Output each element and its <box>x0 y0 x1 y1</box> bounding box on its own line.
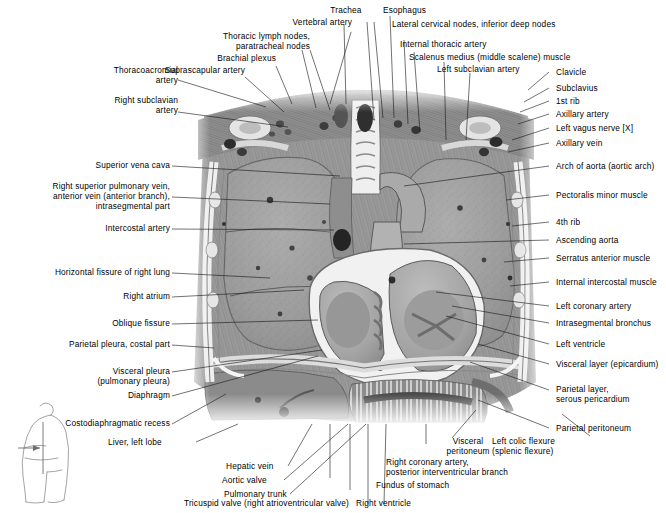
label-suprascapular-artery: Suprascapular artery <box>104 66 245 76</box>
label-left-vagus-nerve: Left vagus nerve [X] <box>556 124 666 134</box>
label-lateral-cervical-nodes: Lateral cervical nodes, inferior deep no… <box>392 20 592 30</box>
label-pectoralis-minor-muscle: Pectoralis minor muscle <box>556 191 666 201</box>
label-superior-vena-cava: Superior vena cava <box>24 161 170 171</box>
label-diaphragm: Diaphragm <box>24 391 170 401</box>
label-right-superior-pulmonary-vein: Right superior pulmonary vein, anterior … <box>24 182 170 211</box>
label-trachea: Trachea <box>318 6 374 16</box>
label-liver-left-lobe: Liver, left lobe <box>108 438 218 448</box>
label-subclavius: Subclavius <box>556 84 664 94</box>
label-intercostal-artery: Intercostal artery <box>24 224 170 234</box>
label-right-atrium: Right atrium <box>24 292 170 302</box>
label-scalenus-medius: Scalenus medius (middle scalene) muscle <box>409 53 609 63</box>
label-thoracic-lymph-nodes: Thoracic lymph nodes, paratracheal nodes <box>144 32 310 52</box>
orientation-diagram <box>6 396 84 508</box>
label-parietal-pleura-costal-part: Parietal pleura, costal part <box>20 340 170 350</box>
label-axillary-artery: Axillary artery <box>556 110 664 120</box>
atlas-figure-page: Thoracoacromial artery Right subclavian … <box>0 0 666 513</box>
label-visceral-pleura: Visceral pleura (pulmonary pleura) <box>24 367 170 387</box>
label-hepatic-vein: Hepatic vein <box>226 462 316 472</box>
label-serratus-anterior-muscle: Serratus anterior muscle <box>556 254 666 264</box>
label-right-subclavian-artery: Right subclavian artery <box>30 96 178 116</box>
body-silhouette-section-indicator <box>6 396 84 508</box>
label-left-coronary-artery: Left coronary artery <box>556 302 666 312</box>
label-internal-thoracic-artery: Internal thoracic artery <box>400 40 560 50</box>
label-horizontal-fissure: Horizontal fissure of right lung <box>14 268 170 278</box>
label-right-coronary-artery: Right coronary artery, posterior interve… <box>386 458 566 478</box>
label-fourth-rib: 4th rib <box>556 218 664 228</box>
anatomical-section-image <box>184 82 546 427</box>
label-intrasegmental-bronchus: Intrasegmental bronchus <box>556 319 666 329</box>
left-ventricle-chamber <box>404 290 464 350</box>
label-brachial-plexus: Brachial plexus <box>146 54 276 64</box>
label-right-ventricle: Right ventricle <box>356 499 452 509</box>
label-parietal-peritoneum: Parietal peritoneum <box>556 424 666 434</box>
right-ventricle-chamber <box>326 292 370 348</box>
label-axillary-vein: Axillary vein <box>556 139 664 149</box>
label-vertebral-artery: Vertebral artery <box>236 18 352 28</box>
coronal-thorax-section <box>184 82 546 427</box>
label-fundus-of-stomach: Fundus of stomach <box>376 481 492 491</box>
left-coronary-artery-lumen <box>389 277 396 284</box>
label-left-ventricle: Left ventricle <box>556 340 664 350</box>
trachea-structure <box>351 100 381 194</box>
label-clavicle: Clavicle <box>556 68 664 78</box>
label-oblique-fissure: Oblique fissure <box>24 319 170 329</box>
label-first-rib: 1st rib <box>556 97 664 107</box>
label-internal-intercostal-muscle: Internal intercostal muscle <box>556 278 666 288</box>
label-costodiaphragmatic-recess: Costodiaphragmatic recess <box>14 419 170 429</box>
label-parietal-layer-serous-pericardium: Parietal layer, serous pericardium <box>556 385 666 405</box>
label-esophagus: Esophagus <box>383 6 453 16</box>
label-left-colic-flexure: Left colic flexure (splenic flexure) <box>492 437 608 457</box>
label-visceral-layer-epicardium: Visceral layer (epicardium) <box>556 360 666 370</box>
label-aortic-valve: Aortic valve <box>222 476 312 486</box>
svc-lumen <box>333 229 351 251</box>
label-arch-of-aorta: Arch of aorta (aortic arch) <box>556 162 666 172</box>
label-ascending-aorta: Ascending aorta <box>556 236 664 246</box>
